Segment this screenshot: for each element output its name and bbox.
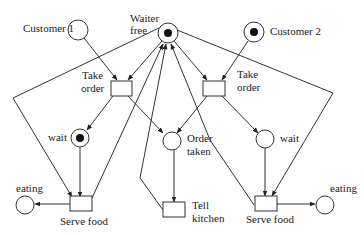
label-customer1: Customer 1 bbox=[23, 22, 74, 34]
label-take-order2-line1: Take bbox=[237, 68, 258, 80]
arc-takeorder1-wait1 bbox=[87, 96, 113, 130]
label-tell-kitchen-line1: Tell bbox=[192, 199, 209, 211]
place-wait1 bbox=[71, 129, 89, 147]
arc-waiter-servefood1 bbox=[13, 28, 159, 197]
label-take-order1-line1: Take bbox=[82, 69, 103, 81]
transition-take-order-2 bbox=[203, 81, 225, 96]
arc-takeorder2-ordertaken bbox=[177, 96, 207, 133]
arcs bbox=[13, 28, 333, 210]
label-waiter-line1: Waiter bbox=[130, 12, 159, 24]
arc-takeorder2-wait2 bbox=[222, 96, 258, 133]
label-waiter-line2: free bbox=[130, 24, 147, 36]
label-order-taken-line1: Order bbox=[187, 132, 213, 144]
arc-waiter-takeorder1 bbox=[128, 41, 162, 80]
arc-servefood1-waiter bbox=[92, 44, 163, 198]
arc-takeorder1-ordertaken bbox=[128, 96, 163, 133]
label-tell-kitchen-line2: kitchen bbox=[192, 212, 225, 224]
label-eating1: eating bbox=[16, 182, 43, 194]
token bbox=[76, 134, 84, 142]
place-eating1 bbox=[16, 196, 34, 214]
place-eating2 bbox=[316, 196, 334, 214]
place-waiter-free bbox=[158, 23, 178, 43]
transition-tell-kitchen bbox=[163, 202, 185, 217]
label-customer2: Customer 2 bbox=[270, 25, 321, 37]
label-take-order1-line2: order bbox=[81, 82, 105, 94]
petri-net-diagram: Customer 1 Waiter free Customer 2 Take o… bbox=[0, 0, 364, 235]
label-eating2: eating bbox=[330, 182, 357, 194]
label-serve-food2: Serve food bbox=[246, 213, 294, 225]
transition-serve-food-1 bbox=[70, 196, 92, 211]
label-order-taken-line2: taken bbox=[187, 145, 211, 157]
token bbox=[250, 28, 258, 36]
arc-waiter-servefood2 bbox=[177, 30, 333, 196]
label-wait1: wait bbox=[48, 131, 67, 143]
place-customer2 bbox=[244, 22, 264, 42]
place-wait2 bbox=[256, 130, 274, 148]
arc-tellkitchen-waiter bbox=[140, 44, 166, 210]
arc-waiter-takeorder2 bbox=[174, 41, 207, 80]
label-take-order2-line2: order bbox=[237, 81, 261, 93]
token bbox=[164, 29, 172, 37]
transition-take-order-1 bbox=[111, 81, 132, 96]
transition-serve-food-2 bbox=[255, 196, 277, 211]
label-wait2: wait bbox=[280, 132, 299, 144]
label-serve-food1: Serve food bbox=[60, 215, 108, 227]
place-order-taken bbox=[163, 132, 181, 150]
